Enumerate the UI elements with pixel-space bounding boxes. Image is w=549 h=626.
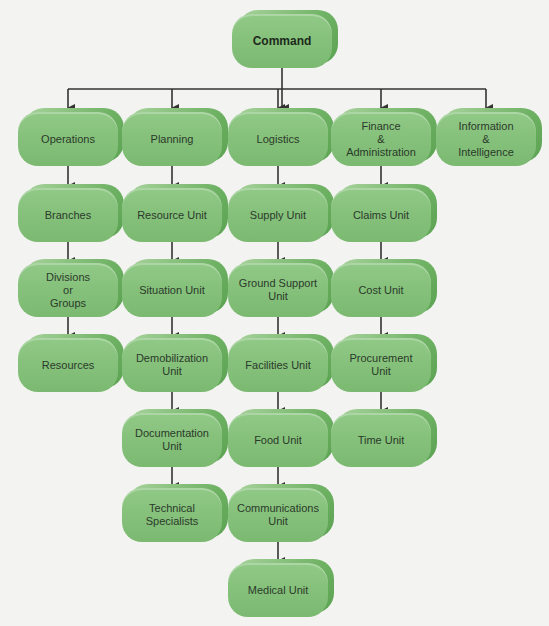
supply-unit-node: Supply Unit — [228, 188, 328, 242]
logistics-node: Logistics — [228, 112, 328, 166]
command-label: Command — [232, 14, 332, 68]
food-unit-node: Food Unit — [228, 413, 328, 467]
facilities-unit-node: Facilities Unit — [228, 338, 328, 392]
information-intelligence-node: Information & Intelligence — [436, 112, 536, 166]
finance-administration-node: Finance & Administration — [331, 112, 431, 166]
supply-unit-label: Supply Unit — [228, 188, 328, 242]
cost-unit-node: Cost Unit — [331, 263, 431, 317]
technical-specialists-label: Technical Specialists — [122, 488, 222, 542]
time-unit-node: Time Unit — [331, 413, 431, 467]
logistics-label: Logistics — [228, 112, 328, 166]
claims-unit-label: Claims Unit — [331, 188, 431, 242]
operations-node: Operations — [18, 112, 118, 166]
documentation-unit-label: Documentation Unit — [122, 413, 222, 467]
resource-unit-node: Resource Unit — [122, 188, 222, 242]
divisions-groups-label: Divisions or Groups — [18, 263, 118, 317]
documentation-unit-node: Documentation Unit — [122, 413, 222, 467]
medical-unit-node: Medical Unit — [228, 563, 328, 617]
demobilization-unit-node: Demobilization Unit — [122, 338, 222, 392]
command-node: Command — [232, 14, 332, 68]
resources-label: Resources — [18, 338, 118, 392]
branches-label: Branches — [18, 188, 118, 242]
communications-unit-label: Communications Unit — [228, 488, 328, 542]
finance-administration-label: Finance & Administration — [331, 112, 431, 166]
divisions-groups-node: Divisions or Groups — [18, 263, 118, 317]
planning-label: Planning — [122, 112, 222, 166]
procurement-unit-label: Procurement Unit — [331, 338, 431, 392]
demobilization-unit-label: Demobilization Unit — [122, 338, 222, 392]
food-unit-label: Food Unit — [228, 413, 328, 467]
resource-unit-label: Resource Unit — [122, 188, 222, 242]
ground-support-unit-node: Ground Support Unit — [228, 263, 328, 317]
claims-unit-node: Claims Unit — [331, 188, 431, 242]
communications-unit-node: Communications Unit — [228, 488, 328, 542]
time-unit-label: Time Unit — [331, 413, 431, 467]
ground-support-unit-label: Ground Support Unit — [228, 263, 328, 317]
situation-unit-node: Situation Unit — [122, 263, 222, 317]
operations-label: Operations — [18, 112, 118, 166]
procurement-unit-node: Procurement Unit — [331, 338, 431, 392]
resources-node: Resources — [18, 338, 118, 392]
medical-unit-label: Medical Unit — [228, 563, 328, 617]
planning-node: Planning — [122, 112, 222, 166]
situation-unit-label: Situation Unit — [122, 263, 222, 317]
org-chart: Command Operations Planning Logistics Fi… — [0, 0, 549, 626]
technical-specialists-node: Technical Specialists — [122, 488, 222, 542]
information-intelligence-label: Information & Intelligence — [436, 112, 536, 166]
cost-unit-label: Cost Unit — [331, 263, 431, 317]
facilities-unit-label: Facilities Unit — [228, 338, 328, 392]
branches-node: Branches — [18, 188, 118, 242]
